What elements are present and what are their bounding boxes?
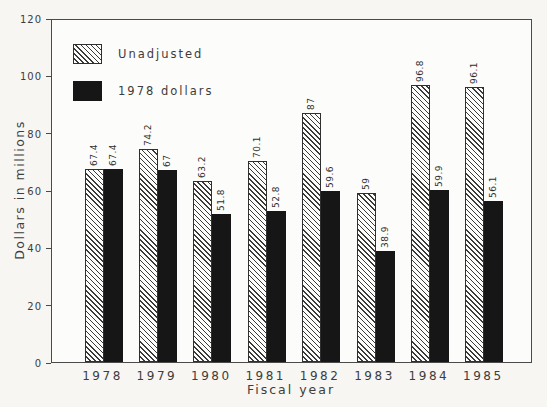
bar-unadjusted-1984: 96.8 xyxy=(411,85,430,362)
legend-row-unadjusted: Unadjusted xyxy=(73,44,213,64)
x-tick-label-1980: 1980 xyxy=(191,369,232,383)
bar-value-label: 38.9 xyxy=(380,225,390,247)
bar-value-label: 56.1 xyxy=(488,176,498,198)
x-tick-label-1978: 1978 xyxy=(82,369,123,383)
chart-canvas: Dollars in millions 67.467.474.26763.251… xyxy=(0,0,547,407)
y-tick-mark xyxy=(46,248,51,249)
bar-unadjusted-1985: 96.1 xyxy=(465,87,484,362)
hatched-swatch-icon xyxy=(73,44,102,64)
y-tick-mark xyxy=(46,133,51,134)
solid-black-swatch-icon xyxy=(73,81,102,101)
bar-group-1983: 5938.9 xyxy=(357,193,395,362)
y-tick-mark xyxy=(46,76,51,77)
legend-label-1978-dollars: 1978 dollars xyxy=(118,84,213,98)
bar-group-1980: 63.251.8 xyxy=(193,181,231,362)
bar-1978dollars-1985: 56.1 xyxy=(484,201,503,362)
bar-group-1979: 74.267 xyxy=(139,149,177,362)
y-tick-label: 120 xyxy=(20,14,42,25)
bar-value-label: 59.6 xyxy=(325,166,335,188)
bar-1978dollars-1979: 67 xyxy=(158,170,177,362)
legend-label-unadjusted: Unadjusted xyxy=(118,47,203,61)
bar-1978dollars-1981: 52.8 xyxy=(267,211,286,362)
x-tick-label-1984: 1984 xyxy=(409,369,450,383)
x-tick-label-1985: 1985 xyxy=(463,369,504,383)
bar-value-label: 70.1 xyxy=(252,136,262,158)
bar-group-1985: 96.156.1 xyxy=(465,87,503,362)
y-tick-label: 0 xyxy=(35,358,42,369)
bar-group-1982: 8759.6 xyxy=(302,113,340,362)
legend: Unadjusted 1978 dollars xyxy=(73,44,213,118)
bar-value-label: 52.8 xyxy=(271,186,281,208)
y-tick-label: 60 xyxy=(27,186,42,197)
bar-value-label: 51.8 xyxy=(216,188,226,210)
bar-value-label: 59.9 xyxy=(434,165,444,187)
x-tick-label-1982: 1982 xyxy=(300,369,341,383)
bar-value-label: 74.2 xyxy=(143,124,153,146)
bar-1978dollars-1983: 38.9 xyxy=(376,251,395,363)
y-tick-mark xyxy=(46,363,51,364)
bar-value-label: 87 xyxy=(306,97,316,109)
bar-unadjusted-1979: 74.2 xyxy=(139,149,158,362)
y-tick-mark xyxy=(46,191,51,192)
x-tick-label-1979: 1979 xyxy=(137,369,178,383)
bar-group-1978: 67.467.4 xyxy=(85,169,123,362)
y-tick-mark xyxy=(46,19,51,20)
bar-value-label: 59 xyxy=(361,177,371,189)
bar-unadjusted-1983: 59 xyxy=(357,193,376,362)
bar-value-label: 67 xyxy=(162,154,172,166)
bar-value-label: 67.4 xyxy=(89,144,99,166)
x-axis-title: Fiscal year xyxy=(247,382,335,397)
bar-group-1981: 70.152.8 xyxy=(248,161,286,362)
y-tick-mark xyxy=(46,305,51,306)
y-tick-label: 20 xyxy=(27,300,42,311)
bar-value-label: 96.8 xyxy=(415,59,425,81)
bar-unadjusted-1978: 67.4 xyxy=(85,169,104,362)
bar-value-label: 67.4 xyxy=(108,144,118,166)
y-tick-label: 80 xyxy=(27,128,42,139)
bar-1978dollars-1980: 51.8 xyxy=(212,214,231,362)
x-tick-label-1983: 1983 xyxy=(354,369,395,383)
bar-1978dollars-1978: 67.4 xyxy=(104,169,123,362)
bar-1978dollars-1984: 59.9 xyxy=(430,190,449,362)
bar-value-label: 96.1 xyxy=(469,61,479,83)
y-tick-label: 40 xyxy=(27,243,42,254)
bar-group-1984: 96.859.9 xyxy=(411,85,449,362)
legend-row-1978-dollars: 1978 dollars xyxy=(73,81,213,101)
x-tick-label-1981: 1981 xyxy=(245,369,286,383)
bar-unadjusted-1981: 70.1 xyxy=(248,161,267,362)
bar-1978dollars-1982: 59.6 xyxy=(321,191,340,362)
y-axis-title: Dollars in millions xyxy=(12,120,27,260)
bar-unadjusted-1982: 87 xyxy=(302,113,321,362)
bar-unadjusted-1980: 63.2 xyxy=(193,181,212,362)
y-tick-label: 100 xyxy=(20,71,42,82)
bar-value-label: 63.2 xyxy=(197,156,207,178)
